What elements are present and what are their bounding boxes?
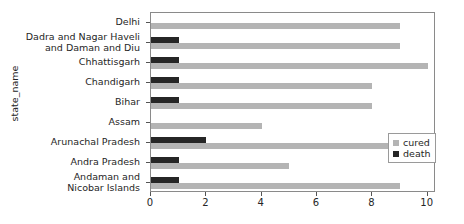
bar-cured [151,83,372,89]
y-tick-label-line: Andaman and [0,171,140,183]
bar-cured [151,63,428,69]
y-tick-label: Delhi [0,16,146,28]
legend-swatch-cured [393,140,399,146]
x-tick-label: 4 [246,197,276,208]
y-tick-label: Andra Pradesh [0,156,146,168]
y-tick-label: Bihar [0,96,146,108]
legend-item[interactable]: cured [393,137,430,148]
bar-cured [151,123,262,129]
x-tick-label: 2 [190,197,220,208]
y-tick-label: Chhattisgarh [0,56,146,68]
bar-cured [151,163,289,169]
y-tick-label: Chandigarh [0,76,146,88]
bar-cured [151,23,400,29]
plot-area [150,12,435,192]
y-tick-label-line: Chandigarh [0,76,140,88]
legend: cureddeath [388,133,436,163]
x-tick-mark [427,192,428,196]
x-tick-label: 6 [301,197,331,208]
y-tick-label-line: Bihar [0,96,140,108]
x-tick-mark [205,192,206,196]
y-tick-label: Andaman andNicobar Islands [0,171,146,194]
x-tick-label: 10 [412,197,442,208]
bar-cured [151,103,372,109]
y-tick-label-line: Nicobar Islands [0,182,140,194]
legend-swatch-death [393,151,399,157]
y-tick-label: Arunachal Pradesh [0,136,146,148]
y-tick-label-line: Arunachal Pradesh [0,136,140,148]
x-tick-mark [316,192,317,196]
bar-cured [151,43,400,49]
bar-cured [151,183,400,189]
y-tick-label-line: Andra Pradesh [0,156,140,168]
y-tick-label: Dadra and Nagar Haveliand Daman and Diu [0,31,146,54]
x-tick-mark [150,192,151,196]
bar-chart: state_name DelhiDadra and Nagar Havelian… [0,0,464,224]
y-tick-label-line: Assam [0,116,140,128]
x-tick-label: 8 [356,197,386,208]
legend-item[interactable]: death [393,148,430,159]
legend-label: death [403,148,430,159]
x-tick-mark [261,192,262,196]
y-tick-label-line: and Daman and Diu [0,42,140,54]
y-tick-label-line: Chhattisgarh [0,56,140,68]
y-tick-label: Assam [0,116,146,128]
y-tick-label-line: Dadra and Nagar Haveli [0,31,140,43]
x-tick-label: 0 [135,197,165,208]
legend-label: cured [403,137,430,148]
x-tick-mark [371,192,372,196]
y-tick-label-line: Delhi [0,16,140,28]
